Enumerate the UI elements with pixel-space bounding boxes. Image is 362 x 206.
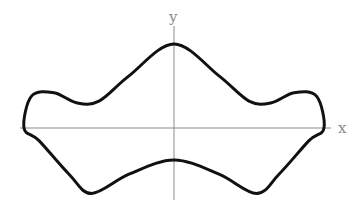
y-axis-label: y [168,8,178,26]
plot: x y [0,0,362,206]
x-axis-label: x [338,119,347,137]
